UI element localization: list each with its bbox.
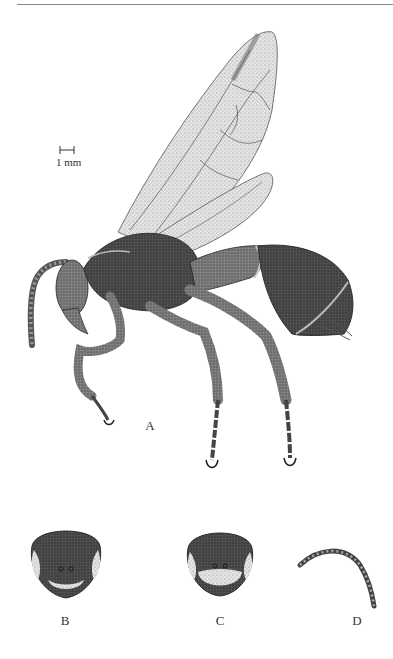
- panel-label-b: B: [61, 613, 70, 629]
- panel-label-c: C: [216, 613, 225, 629]
- panel-a-habitus: [31, 32, 353, 468]
- scale-bar: [60, 146, 74, 154]
- midleg: [150, 306, 218, 400]
- gaster: [258, 245, 353, 335]
- foreleg: [78, 296, 120, 396]
- panel-label-d: D: [352, 613, 361, 629]
- head: [56, 260, 88, 316]
- figure-page: · · · · · · ·: [0, 0, 393, 659]
- panel-d-antenna: [300, 551, 374, 606]
- thorax: [84, 233, 200, 311]
- petiole: [190, 246, 264, 292]
- panel-b-head: [31, 531, 100, 598]
- panel-c-head: [187, 533, 252, 596]
- panel-label-a: A: [145, 418, 154, 434]
- wasp-illustration: [0, 0, 393, 659]
- scale-bar-label: 1 mm: [56, 156, 81, 168]
